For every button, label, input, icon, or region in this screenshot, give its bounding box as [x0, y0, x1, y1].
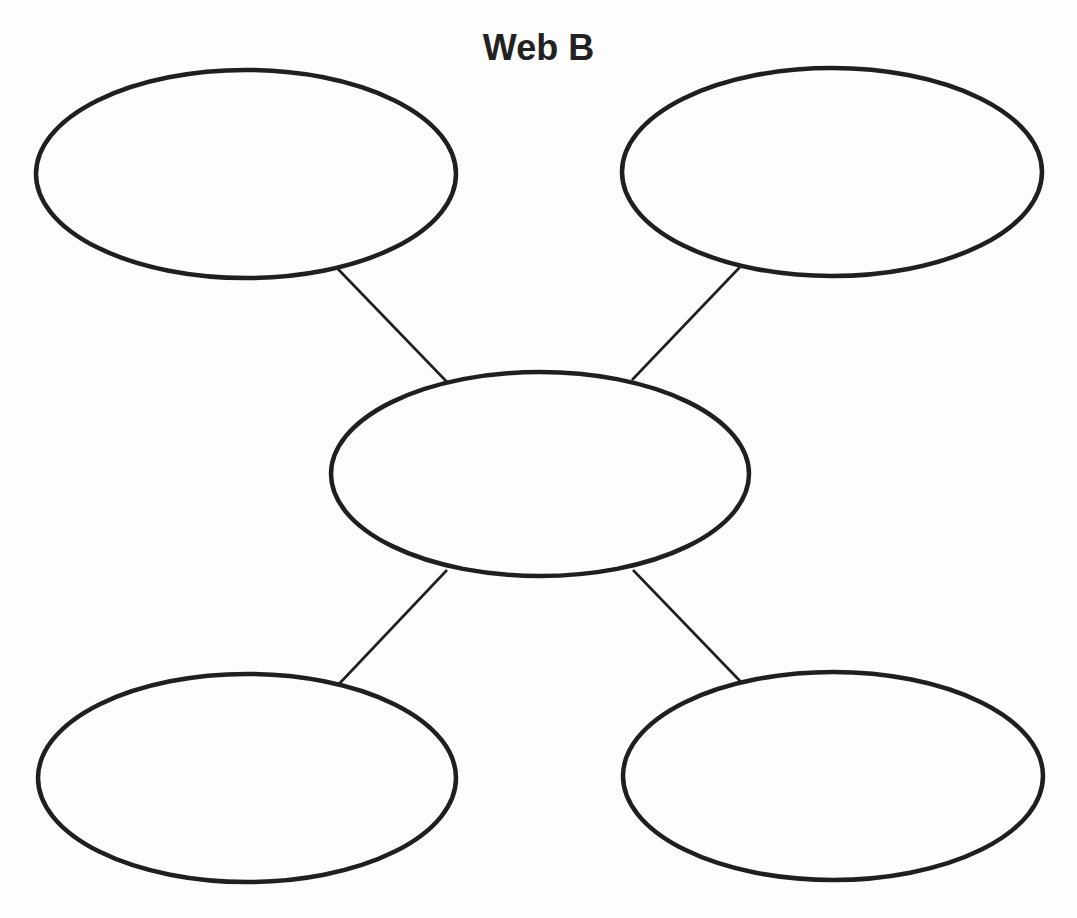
connector-top-right	[632, 267, 740, 380]
bottom-left-ellipse[interactable]	[38, 674, 456, 882]
top-right-ellipse[interactable]	[622, 68, 1042, 276]
node-center[interactable]	[331, 372, 749, 576]
connector-bottom-right	[633, 570, 741, 682]
node-bottom-right[interactable]	[623, 672, 1043, 880]
node-bottom-left[interactable]	[38, 674, 456, 882]
connector-bottom-left	[339, 570, 447, 684]
bottom-right-ellipse[interactable]	[623, 672, 1043, 880]
connector-top-left	[337, 268, 447, 382]
connectors	[337, 267, 741, 684]
node-top-left[interactable]	[36, 70, 456, 278]
concept-web-diagram	[0, 0, 1077, 918]
node-top-right[interactable]	[622, 68, 1042, 276]
center-ellipse[interactable]	[331, 372, 749, 576]
top-left-ellipse[interactable]	[36, 70, 456, 278]
